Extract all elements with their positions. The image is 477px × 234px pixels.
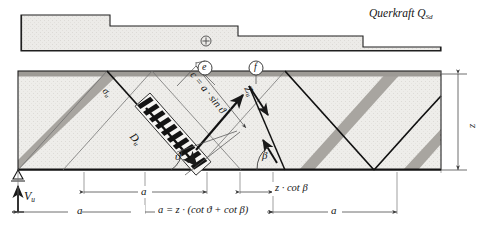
dim-label-a-upper: a (141, 186, 147, 197)
reaction-label: Vu (24, 190, 35, 203)
dim-label-formula: a = z · (cot ϑ + cot β) (158, 205, 248, 216)
zcotbeta-label: z · cot β (275, 183, 308, 194)
figure-canvas: Querkraft QSd e f σu Du ϑ c = a · sin ϑ … (0, 0, 477, 234)
dim-label-a-left: a (77, 205, 83, 216)
beam-body (18, 62, 441, 175)
shear-diagram-label: Querkraft QSd (369, 8, 433, 21)
angle-beta-label: β (262, 150, 267, 161)
shear-diagram-label-text: Querkraft Q (369, 7, 426, 19)
dim-label-a-right: a (331, 205, 337, 216)
depth-label: z (466, 124, 477, 128)
marker-f-label[interactable]: f (254, 62, 257, 72)
plus-sign-icon (201, 36, 211, 46)
marker-e-label[interactable]: e (202, 62, 206, 72)
reaction-label-sub: u (31, 195, 35, 204)
shear-diagram-label-sub: Sd (426, 13, 433, 21)
z-dimension (441, 71, 467, 173)
top-chord-band (18, 71, 441, 77)
diagram-svg (0, 0, 477, 234)
angle-theta-label: ϑ (175, 151, 180, 162)
